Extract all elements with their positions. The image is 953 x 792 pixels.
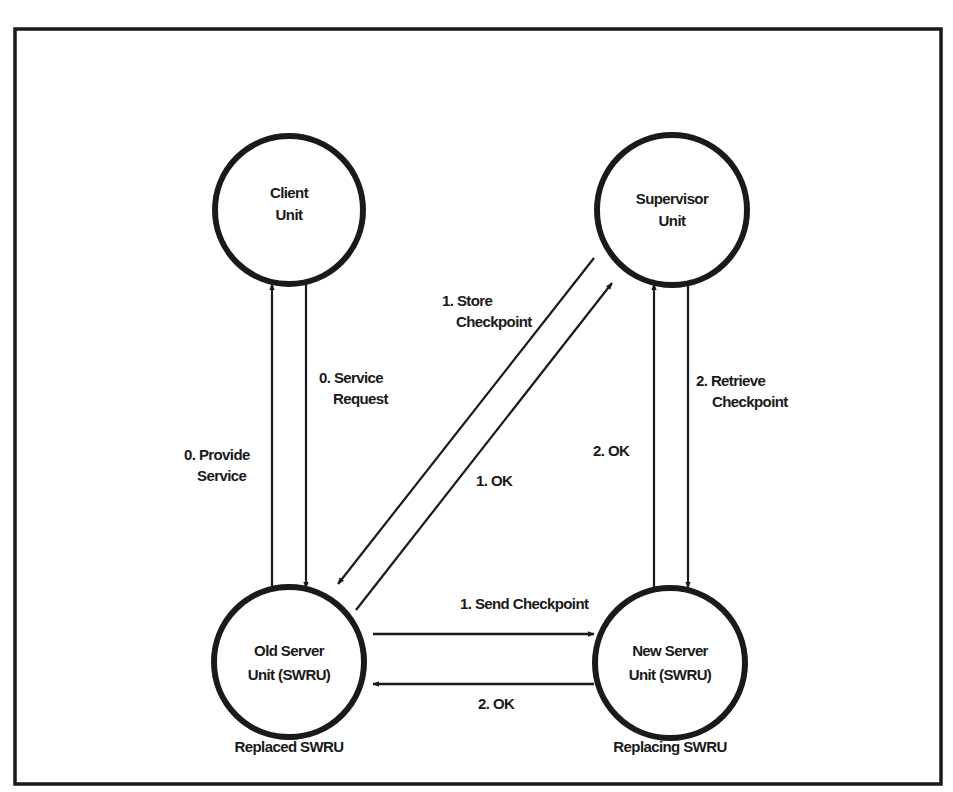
supervisor-unit-label-line1: Supervisor	[636, 190, 709, 207]
new-server-unit-label-line1: New Server	[632, 642, 708, 659]
supervisor-unit-circle	[597, 135, 747, 285]
node-supervisor-unit: Supervisor Unit	[597, 135, 747, 285]
edge-label-ok-2-supervisor: 2. OK	[593, 442, 630, 459]
old-server-unit-circle	[214, 587, 364, 737]
edge-store-checkpoint: 1. Store Checkpoint	[338, 258, 594, 584]
client-unit-label-line1: Client	[270, 184, 309, 201]
edge-ok-1-supervisor: 1. OK	[356, 283, 612, 610]
old-server-unit-label-line2: Unit (SWRU)	[248, 666, 331, 683]
edge-send-checkpoint: 1. Send Checkpoint	[373, 595, 594, 634]
edge-label-service-request-line2: Request	[333, 390, 389, 407]
edge-label-store-checkpoint-line1: 1. Store	[442, 292, 492, 309]
new-server-role-label: Replacing SWRU	[613, 738, 726, 755]
edge-ok-2-supervisor: 2. OK	[593, 284, 654, 588]
edge-provide-service: 0. Provide Service	[184, 284, 272, 588]
edge-label-store-checkpoint-line2: Checkpoint	[456, 313, 532, 330]
new-server-unit-label-line2: Unit (SWRU)	[629, 666, 712, 683]
edge-ok-2-server: 2. OK	[373, 684, 594, 712]
arrow-ok-1-supervisor	[356, 283, 612, 610]
edge-label-ok-2-server: 2. OK	[478, 695, 515, 712]
old-server-unit-label-line1: Old Server	[254, 642, 325, 659]
edge-label-retrieve-checkpoint-line2: Checkpoint	[712, 393, 788, 410]
new-server-unit-circle	[595, 588, 745, 738]
edge-label-provide-service-line1: 0. Provide	[184, 446, 250, 463]
edge-label-service-request-line1: 0. Service	[319, 369, 383, 386]
edge-label-ok-1: 1. OK	[476, 472, 513, 489]
node-client-unit: Client Unit	[215, 136, 363, 284]
edge-label-provide-service-line2: Service	[197, 467, 246, 484]
swru-replacement-diagram: Client Unit Supervisor Unit Old Server U…	[0, 0, 953, 792]
edge-retrieve-checkpoint: 2. Retrieve Checkpoint	[688, 284, 788, 588]
node-new-server-unit: New Server Unit (SWRU) Replacing SWRU	[595, 588, 745, 755]
edge-label-send-checkpoint: 1. Send Checkpoint	[460, 595, 589, 612]
old-server-role-label: Replaced SWRU	[235, 738, 344, 755]
supervisor-unit-label-line2: Unit	[659, 212, 686, 229]
node-old-server-unit: Old Server Unit (SWRU) Replaced SWRU	[214, 587, 364, 755]
edge-label-retrieve-checkpoint-line1: 2. Retrieve	[696, 372, 766, 389]
client-unit-label-line2: Unit	[276, 206, 303, 223]
edge-service-request: 0. Service Request	[306, 284, 389, 588]
